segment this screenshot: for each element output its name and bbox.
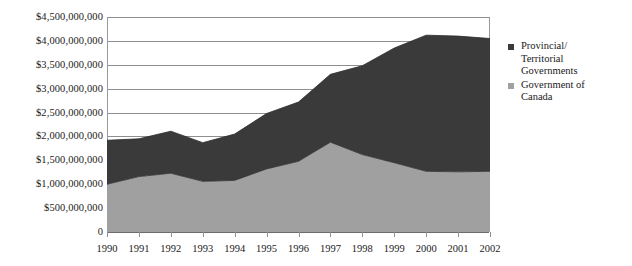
x-axis-tick: [362, 232, 363, 237]
legend-square-marker-icon: [508, 83, 514, 89]
x-axis-tick: [426, 232, 427, 237]
legend-item-label-line: Canada: [521, 91, 585, 104]
legend-item-label-line: Governments: [521, 65, 578, 78]
legend: Provincial/TerritorialGovernmentsGovernm…: [508, 40, 628, 105]
x-axis-tick: [139, 232, 140, 237]
legend-item-label: Government ofCanada: [521, 79, 585, 104]
series-layer: [107, 17, 490, 232]
y-axis-tick-label: $500,000,000: [0, 202, 103, 213]
y-axis-tick-label: $2,500,000,000: [0, 107, 103, 118]
legend-item-label-line: Government of: [521, 79, 585, 92]
x-axis-ticks: [107, 232, 490, 238]
x-axis-tick: [267, 232, 268, 237]
x-axis-tick: [203, 232, 204, 237]
x-axis-tick: [490, 232, 491, 237]
legend-square-marker-icon: [508, 44, 514, 50]
x-axis-tick: [330, 232, 331, 237]
x-axis-tick: [235, 232, 236, 237]
y-axis-tick-label: $1,500,000,000: [0, 154, 103, 165]
x-axis-tick: [171, 232, 172, 237]
x-axis-tick: [299, 232, 300, 237]
x-axis: 1990199119921993199419951996199719981999…: [0, 243, 632, 259]
x-axis-tick: [107, 232, 108, 237]
x-axis-tick: [458, 232, 459, 237]
legend-item-label: Provincial/TerritorialGovernments: [521, 40, 578, 78]
y-axis-tick-label: $1,000,000,000: [0, 178, 103, 189]
y-axis-tick-label: $3,000,000,000: [0, 83, 103, 94]
legend-item-label-line: Provincial/: [521, 40, 578, 53]
y-axis: $4,500,000,000$4,000,000,000$3,500,000,0…: [0, 0, 103, 266]
y-axis-tick-label: $2,000,000,000: [0, 130, 103, 141]
y-axis-tick-label: $4,000,000,000: [0, 35, 103, 46]
x-axis-tick: [394, 232, 395, 237]
legend-item: Government ofCanada: [508, 79, 628, 104]
y-axis-tick-label: $3,500,000,000: [0, 59, 103, 70]
y-axis-tick-label: 0: [0, 226, 103, 237]
x-axis-tick-label: 2002: [470, 243, 510, 255]
y-axis-tick-label: $4,500,000,000: [0, 11, 103, 22]
area-chart: $4,500,000,000$4,000,000,000$3,500,000,0…: [0, 0, 632, 266]
legend-item: Provincial/TerritorialGovernments: [508, 40, 628, 78]
legend-item-label-line: Territorial: [521, 53, 578, 66]
